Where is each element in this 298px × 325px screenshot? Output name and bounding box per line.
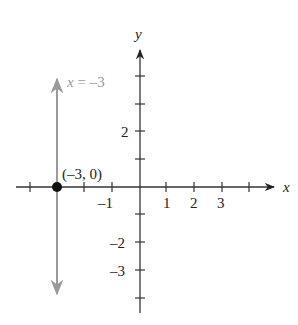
point-label: (–3, 0): [62, 166, 102, 183]
coordinate-plane: y x x = –3 (–3, 0) –1 1 2 3 2 –2 –3: [0, 0, 298, 325]
x-axis-label: x: [282, 179, 290, 195]
y-axis-label: y: [133, 26, 142, 42]
y-tick-label-neg2: –2: [109, 235, 125, 251]
point-neg3-0: [52, 182, 62, 192]
x-tick-label-1: 1: [163, 195, 171, 211]
line-label: x = –3: [66, 74, 105, 90]
y-tick-label-neg3: –3: [109, 263, 125, 279]
x-tick-label-neg1: –1: [97, 195, 113, 211]
line-label-eq: = –3: [74, 74, 105, 90]
x-tick-label-3: 3: [217, 195, 225, 211]
x-tick-label-2: 2: [190, 195, 198, 211]
y-tick-label-2: 2: [121, 124, 129, 140]
